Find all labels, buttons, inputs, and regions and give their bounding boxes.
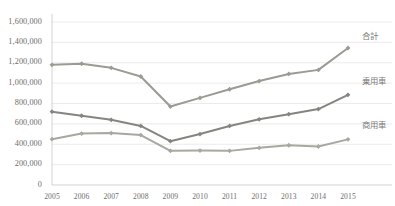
series-label-3: 商用車 [362,121,386,129]
series-inline-labels: 合計乗用車商用車 [0,0,395,206]
series-label-1: 合計 [362,32,378,40]
series-label-2: 乗用車 [362,77,386,85]
line-chart: 1,600,0001,400,0001,200,0001,000,000800,… [0,0,395,206]
